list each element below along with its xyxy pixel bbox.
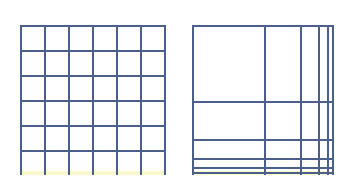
nonuniform-grid-horizontal-line: [192, 139, 334, 141]
uniform-grid-horizontal-line: [20, 100, 166, 102]
nonuniform-grid-vertical-line: [318, 25, 320, 175]
nonuniform-grid-vertical-line: [327, 25, 329, 175]
uniform-grid-horizontal-line: [20, 150, 166, 152]
nonuniform-grid-vertical-line: [192, 25, 194, 175]
nonuniform-grid-vertical-line: [264, 25, 266, 175]
nonuniform-grid-vertical-line: [332, 25, 334, 175]
nonuniform-grid-horizontal-line: [192, 172, 334, 174]
nonuniform-grid-horizontal-line: [192, 101, 334, 103]
uniform-grid-horizontal-line: [20, 75, 166, 77]
uniform-grid-horizontal-line: [20, 25, 166, 27]
nonuniform-grid-vertical-line: [300, 25, 302, 175]
nonuniform-grid-horizontal-line: [192, 158, 334, 160]
uniform-grid-horizontal-line: [20, 50, 166, 52]
nonuniform-grid-horizontal-line: [192, 167, 334, 169]
uniform-grid-horizontal-line: [20, 125, 166, 127]
nonuniform-grid-horizontal-line: [192, 25, 334, 27]
